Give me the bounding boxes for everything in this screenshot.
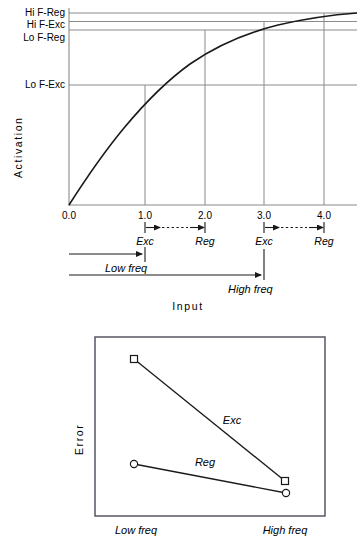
range-label-exc-high: Exc xyxy=(255,235,273,247)
marker-exc-high-freq xyxy=(282,478,289,485)
range-label-reg-low: Reg xyxy=(195,235,214,247)
level-label-lo-f-reg: Lo F-Reg xyxy=(23,32,65,43)
range-span-low xyxy=(145,222,205,233)
level-label-lo-f-exc: Lo F-Exc xyxy=(25,79,65,90)
low-freq-label: Low freq xyxy=(105,262,148,274)
bottom-chart-frame xyxy=(95,337,325,516)
range-label-reg-high: Reg xyxy=(314,235,333,247)
range-span-high xyxy=(264,222,324,233)
x-tick-2: 2.0 xyxy=(198,210,212,221)
y-axis-title-activation: Activation xyxy=(12,116,24,178)
x-tick-3: 3.0 xyxy=(257,210,271,221)
x-tick-4: 4.0 xyxy=(317,210,331,221)
figure-container: Hi F-Reg Hi F-Exc Lo F-Reg Lo F-Exc Acti… xyxy=(0,0,364,548)
range-label-exc-low: Exc xyxy=(136,235,154,247)
series-line-reg xyxy=(134,464,286,493)
level-label-hi-f-exc: Hi F-Exc xyxy=(27,19,65,30)
category-label-low-freq: Low freq xyxy=(115,524,158,536)
figure-svg: Hi F-Reg Hi F-Exc Lo F-Reg Lo F-Exc Acti… xyxy=(0,0,364,548)
x-tick-0: 0.0 xyxy=(62,210,76,221)
activation-curve-path xyxy=(69,13,357,205)
category-label-high-freq: High freq xyxy=(263,524,309,536)
low-freq-annotation: Low freq xyxy=(69,247,148,274)
x-axis-title-input: Input xyxy=(172,300,203,312)
top-chart: Hi F-Reg Hi F-Exc Lo F-Reg Lo F-Exc Acti… xyxy=(12,7,357,312)
droplines xyxy=(145,13,324,205)
bottom-chart: Exc Reg Error Low freq High freq xyxy=(73,337,325,536)
high-freq-label: High freq xyxy=(228,283,274,295)
level-label-hi-f-reg: Hi F-Reg xyxy=(25,7,65,18)
bottom-y-axis-title-error: Error xyxy=(73,424,85,455)
marker-reg-low-freq xyxy=(130,460,137,467)
series-label-exc: Exc xyxy=(223,414,242,426)
x-tick-1: 1.0 xyxy=(138,210,152,221)
series-label-reg: Reg xyxy=(195,456,216,468)
marker-exc-low-freq xyxy=(131,356,138,363)
marker-reg-high-freq xyxy=(282,489,289,496)
high-freq-annotation: High freq xyxy=(69,249,274,295)
